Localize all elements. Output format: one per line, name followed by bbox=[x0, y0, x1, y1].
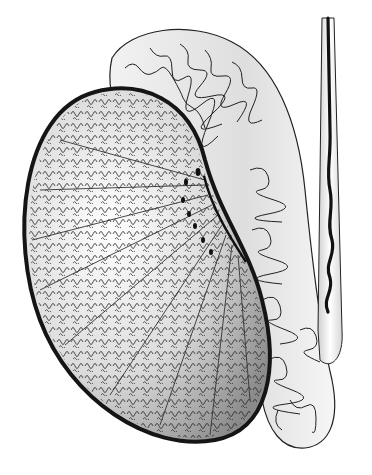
vas-deferens bbox=[318, 18, 342, 364]
illustration-canvas bbox=[0, 0, 372, 475]
testis-epididymis-illustration bbox=[0, 0, 372, 475]
